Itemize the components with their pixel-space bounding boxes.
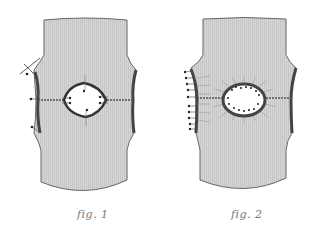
caption-fig1: fig. 1 (77, 208, 109, 221)
figure-2 (184, 18, 296, 189)
measure-mark-icon (24, 64, 34, 74)
right-seam-fig1 (133, 70, 136, 133)
pin-icon (83, 90, 85, 92)
diagram-canvas (0, 0, 312, 235)
pin-icon (26, 73, 29, 76)
figure-1 (20, 18, 136, 191)
pin-icon (86, 109, 88, 111)
caption-fig2: fig. 2 (231, 208, 263, 221)
